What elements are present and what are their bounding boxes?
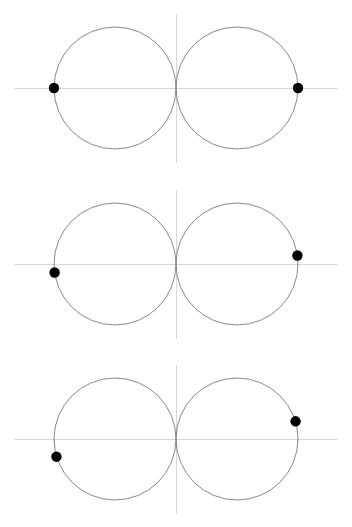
left-marker — [49, 83, 59, 93]
panel-3 — [0, 351, 352, 527]
panel-canvas — [0, 351, 352, 527]
right-marker — [293, 83, 303, 93]
panel-canvas — [0, 176, 352, 352]
right-marker — [290, 416, 300, 426]
figure-root — [0, 0, 352, 527]
right-marker — [292, 250, 302, 260]
panel-canvas — [0, 0, 352, 176]
panel-1 — [0, 0, 352, 176]
panel-2 — [0, 176, 352, 352]
left-marker — [49, 267, 59, 277]
left-marker — [51, 451, 61, 461]
